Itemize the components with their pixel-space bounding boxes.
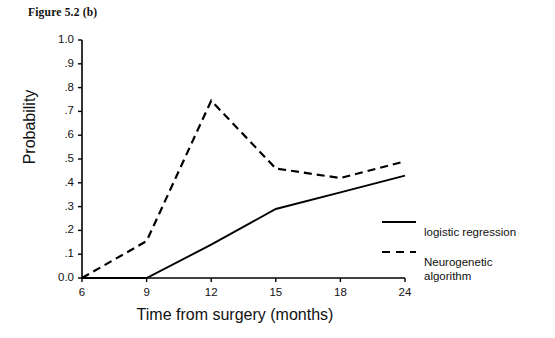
data-series xyxy=(82,101,405,278)
plot-area xyxy=(0,0,555,338)
series-line-1 xyxy=(82,101,405,278)
series-line-0 xyxy=(82,176,405,278)
axes xyxy=(78,40,405,282)
legend-swatches xyxy=(382,222,416,252)
figure-container: Figure 5.2 (b) Probability Time from sur… xyxy=(0,0,555,338)
